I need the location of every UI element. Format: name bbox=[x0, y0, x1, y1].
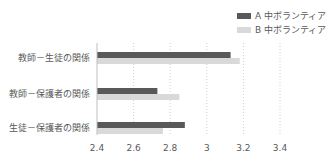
bar-a bbox=[97, 88, 157, 94]
legend-label: B 中ボランティア bbox=[255, 24, 326, 35]
category-labels: 教師－生徒の関係教師－保護者の関係生徒－保護者の関係 bbox=[9, 52, 90, 133]
x-axis-ticks: 2.42.62.833.23.4 bbox=[90, 143, 288, 153]
x-tick-label: 2.6 bbox=[126, 143, 141, 153]
bar-b bbox=[97, 128, 163, 134]
x-tick-label: 3.4 bbox=[273, 143, 288, 153]
category-label: 生徒－保護者の関係 bbox=[9, 122, 90, 133]
x-tick-label: 3 bbox=[204, 143, 210, 153]
legend-swatch bbox=[237, 27, 251, 33]
x-tick-label: 2.4 bbox=[90, 143, 105, 153]
bar-a bbox=[97, 52, 231, 58]
bar-b bbox=[97, 94, 179, 100]
legend: A 中ボランティアB 中ボランティア bbox=[237, 10, 326, 35]
bar-chart: 2.42.62.833.23.4 教師－生徒の関係教師－保護者の関係生徒－保護者… bbox=[0, 0, 335, 161]
bar-a bbox=[97, 122, 185, 128]
x-tick-label: 2.8 bbox=[163, 143, 178, 153]
legend-swatch bbox=[237, 13, 251, 19]
category-label: 教師－生徒の関係 bbox=[18, 52, 90, 63]
x-tick-label: 3.2 bbox=[236, 143, 250, 153]
bar-b bbox=[97, 58, 240, 64]
legend-label: A 中ボランティア bbox=[255, 10, 326, 21]
bars bbox=[97, 52, 240, 134]
category-label: 教師－保護者の関係 bbox=[9, 88, 90, 99]
